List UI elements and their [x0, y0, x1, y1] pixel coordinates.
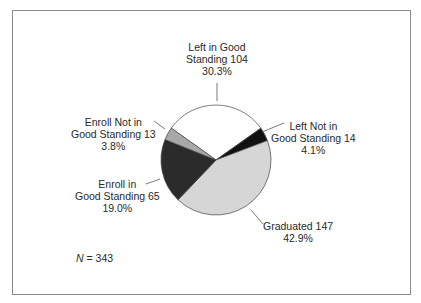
- label-line: Graduated 147: [263, 220, 333, 232]
- label-graduated: Graduated 147 42.9%: [263, 220, 333, 244]
- label-line: Enroll in: [75, 178, 160, 190]
- n-value: = 343: [84, 252, 114, 264]
- label-line: 4.1%: [271, 144, 356, 156]
- label-line: Left in Good: [186, 41, 248, 53]
- sample-size: N = 343: [76, 252, 113, 264]
- label-line: 42.9%: [263, 232, 333, 244]
- leader-graduated: [251, 210, 263, 224]
- label-line: Good Standing 13: [71, 128, 156, 140]
- label-enroll-good: Enroll in Good Standing 65 19.0%: [75, 178, 160, 214]
- label-line: 3.8%: [71, 140, 156, 152]
- label-line: 30.3%: [186, 65, 248, 77]
- label-line: Standing 104: [186, 53, 248, 65]
- n-symbol: N: [76, 252, 84, 264]
- label-line: Left Not in: [271, 120, 356, 132]
- pie-slices: [161, 105, 271, 215]
- label-left-good: Left in Good Standing 104 30.3%: [186, 41, 248, 77]
- label-line: Good Standing 65: [75, 190, 160, 202]
- label-left-not-good: Left Not in Good Standing 14 4.1%: [271, 120, 356, 156]
- label-line: Enroll Not in: [71, 116, 156, 128]
- label-line: Good Standing 14: [271, 132, 356, 144]
- label-enroll-not-good: Enroll Not in Good Standing 13 3.8%: [71, 116, 156, 152]
- label-line: 19.0%: [75, 202, 160, 214]
